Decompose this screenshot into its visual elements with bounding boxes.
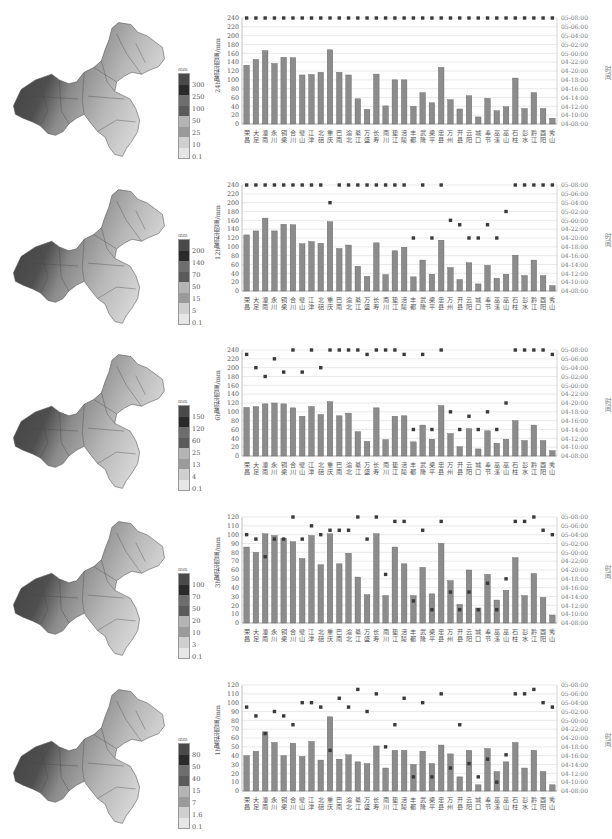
legend-tick: 15 [192,296,200,303]
svg-text:05-08:00: 05-08:00 [561,14,588,21]
time-marker [310,348,313,351]
svg-text:05-06:00: 05-06:00 [561,190,588,197]
bar [337,564,343,623]
station-label: 黔江 [530,461,537,476]
bar [550,286,556,291]
station-label: 江津 [308,797,315,811]
svg-text:05-06:00: 05-06:00 [561,522,588,529]
svg-text:90: 90 [231,708,239,715]
legend-tick: 100 [192,106,204,113]
station-label: 渝北 [344,461,352,476]
legend-tick: 300 [192,82,204,89]
station-label: 北碚 [316,628,324,643]
time-marker [393,16,396,19]
svg-text:50: 50 [231,575,239,582]
svg-text:220: 220 [227,355,239,362]
time-marker [458,608,461,611]
station-label: 璧山 [299,628,306,643]
station-label: 巫溪 [493,629,500,643]
bar [494,443,500,456]
legend-tick: 70 [192,594,200,601]
station-label: 涪陵 [401,628,408,643]
station-label: 北碚 [316,296,324,311]
station-label: 秀山 [549,129,556,144]
color-legend: mm15012060251340.1 [176,398,216,493]
time-marker [458,428,461,431]
station-label: 重庆 [327,628,334,643]
station-label: 南川 [382,296,389,310]
bar [374,534,380,623]
station-label: 璧山 [299,129,306,144]
station-label: 永川 [271,296,278,310]
station-label: 巫山 [503,797,510,811]
bar [253,407,259,456]
bar [346,553,352,623]
station-label: 江津 [308,297,315,311]
bar [272,742,278,791]
svg-text:04-18:00: 04-18:00 [561,76,588,83]
time-marker [523,520,526,523]
time-marker [245,16,248,19]
legend-tick: 4 [192,474,196,481]
bar [392,547,398,623]
bar [355,432,361,456]
svg-text:04-14:00: 04-14:00 [561,761,588,768]
y-axis-label: 12h累积雨量/mm [213,205,223,260]
station-label: 酉阳 [540,629,547,643]
bar [522,596,528,623]
time-marker [273,710,276,713]
svg-text:05-00:00: 05-00:00 [561,549,588,556]
svg-text:80: 80 [231,252,239,259]
time-marker [301,183,304,186]
bar [401,80,407,124]
svg-text:40: 40 [231,435,239,442]
bar [411,442,417,456]
time-marker [328,16,331,19]
time-marker [402,16,405,19]
station-label: 垫江 [390,796,398,811]
svg-text:0: 0 [235,287,239,294]
time-marker [458,723,461,726]
svg-text:04-18:00: 04-18:00 [561,243,588,250]
time-marker [282,183,285,186]
bar [337,72,343,124]
svg-text:90: 90 [231,540,239,547]
bar [411,106,417,124]
station-label: 永川 [271,461,278,475]
time-marker [291,183,294,186]
time-marker [449,410,452,413]
svg-text:160: 160 [227,382,239,389]
legend-tick: 25 [192,130,200,137]
station-label: 万盛 [364,797,371,810]
time-marker [504,577,507,580]
svg-text:05-00:00: 05-00:00 [561,50,588,57]
panel-4: mm1007050201030.101020304050607080901001… [0,507,612,672]
svg-text:05-02:00: 05-02:00 [561,41,588,48]
bar [401,750,407,791]
bar [327,717,333,791]
svg-text:200: 200 [227,32,239,39]
bar [513,421,519,456]
station-label: 万州 [447,797,454,810]
svg-text:40: 40 [231,103,239,110]
svg-text:0: 0 [235,619,239,626]
station-label: 江津 [308,130,315,144]
time-marker [319,16,322,19]
legend-tick: 0.1 [192,824,202,831]
station-label: 大足 [252,796,259,811]
station-label: 铜梁 [280,461,287,476]
bar [299,244,305,291]
svg-text:04-12:00: 04-12:00 [561,602,588,609]
time-marker [486,582,489,585]
time-marker [467,590,470,593]
bar [429,274,435,291]
time-marker [504,753,507,756]
bar [466,263,472,291]
bar [281,404,287,456]
bar [438,745,444,791]
station-label: 巴南 [336,297,343,310]
station-label: 垫江 [390,129,398,144]
svg-text:04-10:00: 04-10:00 [561,443,588,450]
time-marker [393,723,396,726]
legend-unit: mm [178,736,187,742]
